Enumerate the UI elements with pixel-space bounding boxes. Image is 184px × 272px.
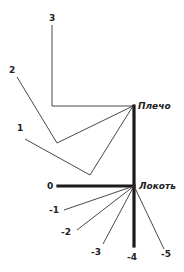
label-minus3: -3 — [91, 247, 101, 257]
label-minus4: -4 — [127, 252, 137, 262]
elbow-position-minus5: -5 — [134, 186, 171, 259]
label-0: 0 — [47, 181, 53, 191]
label-minus2: -2 — [61, 227, 71, 237]
shoulder-position-3: 3 — [49, 13, 133, 106]
elbow-position-0: 0 — [47, 181, 134, 191]
label-2: 2 — [9, 65, 15, 75]
label-minus5: -5 — [161, 249, 171, 259]
elbow-label: Локоть — [138, 181, 176, 191]
label-3: 3 — [49, 13, 55, 23]
label-1: 1 — [17, 123, 23, 133]
elbow-position-minus4: -4 — [127, 252, 137, 262]
label-minus1: -1 — [49, 205, 59, 215]
elbow-position-minus2: -2 — [61, 186, 134, 237]
shoulder-label: Плечо — [138, 101, 171, 111]
elbow-position-minus3: -3 — [91, 186, 134, 257]
shoulder-position-2: 2 — [9, 65, 133, 143]
arm-position-diagram: 3 2 1 0 -1 -2 -3 -4 -5 Плечо Локоть — [0, 0, 184, 272]
shoulder-position-1: 1 — [17, 106, 133, 175]
